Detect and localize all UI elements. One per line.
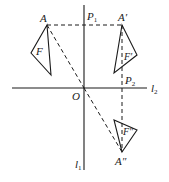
label-O: O bbox=[72, 90, 80, 102]
label-A-prime: A′ bbox=[117, 11, 128, 23]
label-P1-sub: 1 bbox=[94, 16, 98, 24]
dashed-O-to-A-double-prime bbox=[84, 88, 122, 152]
label-F-prime: F′ bbox=[123, 51, 133, 62]
label-P2: P2 bbox=[124, 74, 136, 88]
label-l2-sub: 2 bbox=[154, 88, 158, 96]
label-P1: P1 bbox=[86, 10, 98, 24]
label-l1: l1 bbox=[75, 158, 82, 172]
label-F: F bbox=[35, 45, 43, 57]
label-l1-sub: 1 bbox=[78, 164, 82, 172]
label-F-double-prime: F″ bbox=[122, 126, 134, 137]
triangle-F-prime bbox=[114, 25, 137, 73]
reflection-diagram: A F P1 A′ F′ P2 l2 O F″ A″ l1 bbox=[0, 0, 169, 182]
label-l2: l2 bbox=[151, 82, 158, 96]
label-A-double-prime: A″ bbox=[114, 155, 127, 167]
label-A: A bbox=[39, 12, 47, 24]
label-P2-sub: 2 bbox=[132, 80, 136, 88]
dashed-A-to-O bbox=[47, 25, 84, 88]
